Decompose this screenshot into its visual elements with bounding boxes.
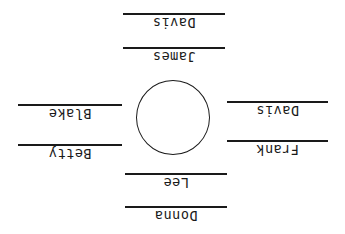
seat-name-bottom-2: Donna bbox=[125, 208, 227, 224]
seat-name-left-1: Blake bbox=[18, 106, 122, 122]
round-table-circle bbox=[136, 80, 210, 155]
seat-name-left-2: Betty bbox=[18, 146, 122, 162]
seat-name-right-1: Davis bbox=[227, 103, 328, 119]
seat-name-top-1: Davis bbox=[123, 15, 225, 31]
seat-name-bottom-1: Lee bbox=[125, 175, 227, 191]
seat-name-top-2: James bbox=[123, 49, 225, 65]
seat-name-right-2: Frank bbox=[227, 142, 328, 158]
